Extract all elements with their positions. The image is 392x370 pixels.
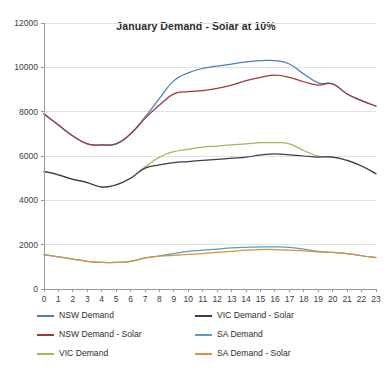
series-line-vic-demand	[44, 143, 376, 188]
legend-item[interactable]: SA Demand - Solar	[195, 344, 355, 363]
legend-swatch-icon	[195, 315, 212, 317]
x-tick-label: 6	[128, 294, 133, 304]
plot-area: 0200040006000800010000120000123456789101…	[0, 0, 392, 310]
x-tick-label: 7	[143, 294, 148, 304]
legend-item[interactable]: VIC Demand	[37, 344, 187, 363]
x-tick-label: 20	[328, 294, 338, 304]
legend-label: VIC Demand - Solar	[217, 311, 294, 320]
series-line-vic-demand-solar	[44, 154, 376, 187]
x-tick-label: 23	[371, 294, 381, 304]
x-tick-label: 14	[241, 294, 251, 304]
series-line-sa-demand	[44, 247, 376, 263]
legend-label: NSW Demand - Solar	[59, 330, 142, 339]
y-tick-label: 0	[33, 284, 38, 294]
legend-item[interactable]: VIC Demand - Solar	[195, 306, 355, 325]
x-tick-label: 10	[184, 294, 194, 304]
legend-item[interactable]: NSW Demand - Solar	[37, 325, 187, 344]
x-tick-label: 1	[56, 294, 61, 304]
y-tick-label: 2000	[19, 240, 38, 250]
x-tick-label: 13	[227, 294, 237, 304]
legend-label: SA Demand - Solar	[217, 349, 291, 358]
x-tick-label: 17	[285, 294, 295, 304]
x-tick-label: 12	[212, 294, 222, 304]
legend-swatch-icon	[195, 334, 212, 336]
y-tick-label: 10000	[14, 62, 38, 72]
legend-label: VIC Demand	[59, 349, 108, 358]
x-tick-label: 18	[299, 294, 309, 304]
chart-legend: NSW DemandVIC Demand - SolarNSW Demand -…	[0, 306, 392, 370]
legend-swatch-icon	[37, 315, 54, 317]
legend-item[interactable]: SA Demand	[195, 325, 355, 344]
y-tick-label: 6000	[19, 151, 38, 161]
y-tick-label: 4000	[19, 195, 38, 205]
x-tick-label: 9	[172, 294, 177, 304]
x-tick-label: 2	[71, 294, 76, 304]
legend-item[interactable]: NSW Demand	[37, 306, 187, 325]
x-tick-label: 21	[342, 294, 352, 304]
x-tick-label: 16	[270, 294, 280, 304]
series-line-nsw-demand	[44, 60, 376, 145]
x-tick-label: 4	[99, 294, 104, 304]
x-tick-label: 8	[157, 294, 162, 304]
x-tick-label: 0	[42, 294, 47, 304]
y-tick-label: 12000	[14, 18, 38, 28]
x-tick-label: 5	[114, 294, 119, 304]
x-tick-label: 11	[198, 294, 207, 304]
legend-label: NSW Demand	[59, 311, 114, 320]
x-tick-label: 3	[85, 294, 90, 304]
x-tick-label: 22	[357, 294, 367, 304]
x-tick-label: 19	[314, 294, 324, 304]
chart-container: January Demand - Solar at 10% 0200040006…	[0, 0, 392, 370]
legend-label: SA Demand	[217, 330, 263, 339]
series-line-nsw-demand-solar	[44, 75, 376, 145]
y-tick-label: 8000	[19, 107, 38, 117]
legend-swatch-icon	[195, 353, 212, 355]
legend-swatch-icon	[37, 353, 54, 355]
legend-swatch-icon	[37, 334, 54, 336]
x-tick-label: 15	[256, 294, 266, 304]
